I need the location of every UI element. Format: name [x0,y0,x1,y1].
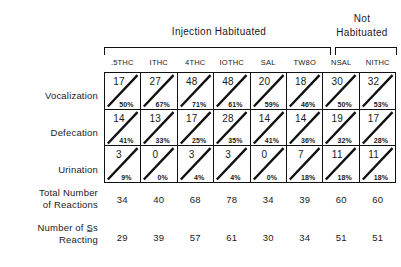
data-cell: 14 36% [287,110,323,146]
column-header-row: .5THC ITHC 4THC IOTHC SAL TW8O NSAL NITH… [104,58,396,71]
data-cell: 11 18% [360,146,395,182]
data-cell: 3 4% [214,146,250,182]
summary-row-total-reactions: 34 40 68 78 34 39 60 60 [104,194,396,205]
cell-count: 17 [363,113,385,124]
column-header-2: 4THC [177,58,214,71]
cell-percent: 59% [260,101,284,108]
column-header-5: TW8O [287,58,324,71]
cell-percent: 41% [260,137,284,144]
cell-percent: 33% [151,137,175,144]
summary-value: 30 [250,232,287,243]
column-header-0: .5THC [104,58,141,71]
summary-value: 78 [214,194,251,205]
cell-count: 19 [326,113,348,124]
cell-count: 3 [108,149,130,160]
summary-value: 29 [104,232,141,243]
cell-count: 13 [144,113,166,124]
cell-percent: 4% [187,174,211,181]
cell-count: 17 [181,113,203,124]
data-cell: 18 46% [287,73,323,109]
cell-percent: 0% [151,174,175,181]
summary-value: 68 [177,194,214,205]
summary-value: 39 [287,194,324,205]
cell-percent: 0% [260,174,284,181]
cell-count: 20 [254,76,276,87]
cell-count: 48 [217,76,239,87]
data-cell: 28 35% [214,110,250,146]
cell-count: 14 [290,113,312,124]
cell-count: 32 [363,76,385,87]
data-cell: 14 41% [251,110,287,146]
summary-label-number-of-ss-reacting-line2: Reacting [0,234,98,246]
data-cell: 17 50% [105,73,141,109]
cell-count: 27 [144,76,166,87]
cell-percent: 50% [333,101,357,108]
table-row: 14 41% 13 33% 17 25% 28 35% 14 41% 14 36… [105,110,395,147]
group-label-not-habituated-line1: Not [354,13,370,24]
data-cell: 7 18% [287,146,323,182]
data-cell: 32 53% [360,73,395,109]
summary-value: 34 [250,194,287,205]
cell-percent: 67% [151,101,175,108]
cell-count: 48 [181,76,203,87]
summary-label-number-of-ss-reacting-line1: Number of S̲s [38,222,98,233]
data-cell: 3 9% [105,146,141,182]
column-header-6: NSAL [323,58,360,71]
cell-count: 18 [290,76,312,87]
cell-percent: 25% [187,137,211,144]
data-table: 17 50% 27 67% 48 71% 48 61% 20 59% 18 46… [104,72,396,183]
cell-percent: 18% [369,174,393,181]
cell-percent: 61% [224,101,248,108]
row-label-vocalization: Vocalization [0,90,98,101]
cell-count: 14 [108,113,130,124]
cell-count: 11 [363,149,385,160]
summary-label-total-reactions-line1: Total Number [39,187,98,198]
bracket-not-habituated [335,47,397,55]
summary-value: 51 [323,232,360,243]
summary-value: 51 [360,232,397,243]
column-header-1: ITHC [141,58,178,71]
row-label-defecation: Defecation [0,127,98,138]
cell-count: 7 [290,149,312,160]
cell-count: 3 [181,149,203,160]
cell-count: 3 [217,149,239,160]
data-cell: 48 61% [214,73,250,109]
summary-row-number-of-ss-reacting: 29 39 57 61 30 34 51 51 [104,232,396,243]
summary-value: 57 [177,232,214,243]
summary-value: 60 [360,194,397,205]
data-cell: 3 4% [178,146,214,182]
column-header-7: NITHC [360,58,397,71]
cell-percent: 18% [296,174,320,181]
data-cell: 48 71% [178,73,214,109]
data-cell: 20 59% [251,73,287,109]
cell-percent: 9% [114,174,138,181]
cell-percent: 35% [224,137,248,144]
cell-count: 17 [108,76,130,87]
data-cell: 11 18% [323,146,359,182]
data-cell: 19 32% [323,110,359,146]
cell-percent: 18% [333,174,357,181]
cell-percent: 41% [114,137,138,144]
cell-count: 14 [254,113,276,124]
row-label-urination: Urination [0,164,98,175]
cell-count: 30 [326,76,348,87]
cell-count: 11 [326,149,348,160]
cell-count: 0 [254,149,276,160]
summary-value: 34 [287,232,324,243]
data-cell: 30 50% [323,73,359,109]
group-label-not-habituated: Not Habituated [326,12,398,40]
column-header-3: IOTHC [214,58,251,71]
summary-value: 40 [141,194,178,205]
group-label-injection-habituated: Injection Habituated [104,26,334,37]
group-header-band: Injection Habituated Not Habituated [0,4,401,44]
summary-value: 60 [323,194,360,205]
cell-percent: 4% [224,174,248,181]
data-cell: 14 41% [105,110,141,146]
bracket-injection-habituated [104,47,331,55]
summary-label-total-reactions-line2: of Reactions [0,199,98,211]
cell-percent: 71% [187,101,211,108]
table-row: 17 50% 27 67% 48 71% 48 61% 20 59% 18 46… [105,73,395,110]
cell-count: 28 [217,113,239,124]
group-label-not-habituated-line2: Habituated [336,27,387,38]
data-cell: 0 0% [251,146,287,182]
